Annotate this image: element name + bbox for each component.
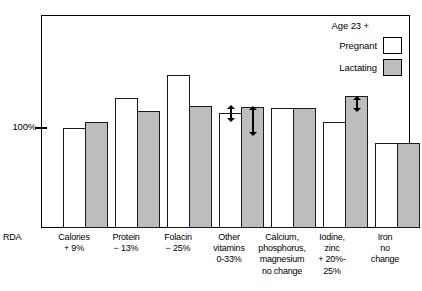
- bar-folacin-pregnant[interactable]: [167, 75, 190, 228]
- arrowhead-down-icon: [353, 108, 361, 112]
- bar-iron-pregnant[interactable]: [375, 143, 398, 228]
- range-arrow-other-vitamins-lactating: [248, 106, 257, 136]
- legend-item-pregnant[interactable]: Pregnant: [250, 37, 402, 54]
- bar-folacin-lactating[interactable]: [189, 106, 212, 228]
- legend-label-pregnant: Pregnant: [339, 40, 377, 52]
- x-label-line: Iron: [355, 232, 415, 243]
- range-arrow-iodine-zinc-lactating: [352, 96, 361, 112]
- legend-swatch-pregnant: [383, 37, 402, 54]
- arrow-shaft: [252, 109, 254, 133]
- x-label-iodine-zinc: Iodine, zinc + 20%- 25%: [301, 232, 363, 277]
- arrowhead-down-icon: [227, 118, 235, 122]
- x-label-line: change: [355, 254, 415, 265]
- bar-iodine-zinc-lactating[interactable]: [345, 96, 368, 228]
- range-arrow-other-vitamins-pregnant: [226, 105, 235, 122]
- y-axis-tick-label-100: 100%: [0, 121, 36, 133]
- bar-protein-lactating[interactable]: [137, 111, 160, 228]
- bar-protein-pregnant[interactable]: [115, 98, 138, 228]
- bar-chart-figure: 100%: [0, 0, 422, 291]
- x-label-line: zinc: [301, 243, 363, 254]
- legend-label-lactating: Lactating: [339, 62, 377, 74]
- bar-iodine-zinc-pregnant[interactable]: [323, 122, 346, 228]
- x-label-line: Iodine,: [301, 232, 363, 243]
- x-label-line: 25%: [301, 266, 363, 277]
- x-label-line: no: [355, 243, 415, 254]
- bar-calories-pregnant[interactable]: [63, 128, 86, 228]
- x-label-line: + 20%-: [301, 254, 363, 265]
- bar-calcium-lactating[interactable]: [293, 108, 316, 228]
- x-label-iron: Iron no change: [355, 232, 415, 266]
- legend-title: Age 23 +: [250, 20, 402, 32]
- legend-item-lactating[interactable]: Lactating: [250, 59, 402, 76]
- bar-calories-lactating[interactable]: [85, 122, 108, 228]
- legend-swatch-lactating: [383, 59, 402, 76]
- bar-other-vitamins-pregnant[interactable]: [219, 113, 242, 228]
- arrowhead-down-icon: [249, 132, 257, 136]
- x-axis-labels: RDA Calories + 9% Protein − 13% Folacin …: [0, 232, 422, 291]
- bar-iron-lactating[interactable]: [397, 143, 420, 228]
- axis-label-rda: RDA: [3, 232, 21, 243]
- bar-calcium-pregnant[interactable]: [271, 108, 294, 228]
- legend: Age 23 + Pregnant Lactating: [250, 20, 402, 76]
